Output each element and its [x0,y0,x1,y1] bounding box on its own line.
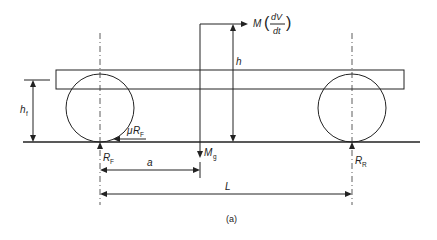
front-reaction-arrowhead [97,142,103,149]
cg-distance-arrow-left [100,167,107,173]
rear-reaction-label: R R [355,155,367,168]
weight-label: M g [204,147,217,161]
wheelbase-arrow-right [345,191,352,197]
svg-text:M: M [253,18,262,29]
svg-text:): ) [286,14,291,31]
friction-force-label: μ R F [126,125,144,138]
cg-distance-label: a [147,157,153,168]
cg-height-label: h [236,56,242,67]
inertia-force-label: M ( dV dt ) [253,12,291,36]
svg-text:R: R [362,161,367,168]
svg-text:F: F [140,131,144,138]
weight-arrowhead [197,151,203,158]
friction-arrowhead [113,136,120,142]
cg-distance-arrow-right [193,167,200,173]
svg-text:μ: μ [126,125,133,136]
inertia-arrowhead [241,21,248,27]
svg-text:F: F [110,158,114,165]
svg-text:M: M [204,147,213,158]
svg-text:dV: dV [271,12,283,22]
svg-text:(: ( [264,14,270,31]
front-axle-height-label: h f [20,104,28,117]
wheelbase-arrow-left [100,191,107,197]
wheelbase-label: L [225,181,231,192]
svg-text:g: g [213,153,217,161]
front-axle-height-arrow-bottom [30,135,36,142]
front-axle-height-arrow-top [30,80,36,87]
front-reaction-label: R F [103,152,114,165]
rear-reaction-arrowhead [349,142,355,149]
cg-height-arrow-top [230,24,236,31]
cg-height-arrow-bottom [230,135,236,142]
svg-text:dt: dt [273,26,281,36]
figure-caption: (a) [226,214,237,224]
svg-text:f: f [26,110,28,117]
vehicle-force-diagram: M ( dV dt ) h h f μ R F R F R R M g a L … [0,0,437,240]
